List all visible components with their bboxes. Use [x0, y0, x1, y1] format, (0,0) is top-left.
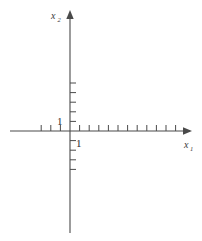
x-axis-label-subscript: 1 [190, 145, 193, 152]
y-axis-tick-group [70, 83, 76, 169]
x-axis-arrowhead [183, 127, 192, 134]
y-axis-label-subscript: 2 [58, 16, 62, 23]
x-axis-label: x [183, 139, 189, 150]
y-axis-arrowhead [66, 10, 73, 19]
coordinate-axes-figure: x 1 x 2 1 1 [0, 0, 202, 241]
x-axis-unit-label: 1 [76, 137, 82, 149]
axes-canvas: x 1 x 2 1 1 [0, 0, 202, 241]
y-axis-label: x [50, 10, 56, 21]
y-axis-unit-label: 1 [57, 115, 63, 127]
